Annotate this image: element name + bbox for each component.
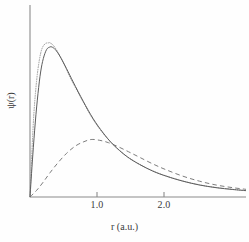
axes-group bbox=[30, 5, 246, 197]
y-axis-label: ψ(r) bbox=[5, 77, 16, 125]
curves-group bbox=[30, 43, 246, 197]
dotted-curve bbox=[30, 43, 246, 197]
x-tick-label-1: 1.0 bbox=[85, 199, 109, 210]
x-axis-label: r (a.u.) bbox=[0, 221, 249, 232]
figure-canvas: 1.0 2.0 r (a.u.) ψ(r) bbox=[0, 0, 249, 242]
x-tick-label-2: 2.0 bbox=[152, 199, 176, 210]
plot-area bbox=[0, 0, 249, 242]
solid-curve bbox=[30, 47, 246, 197]
dashed-curve bbox=[30, 139, 246, 197]
